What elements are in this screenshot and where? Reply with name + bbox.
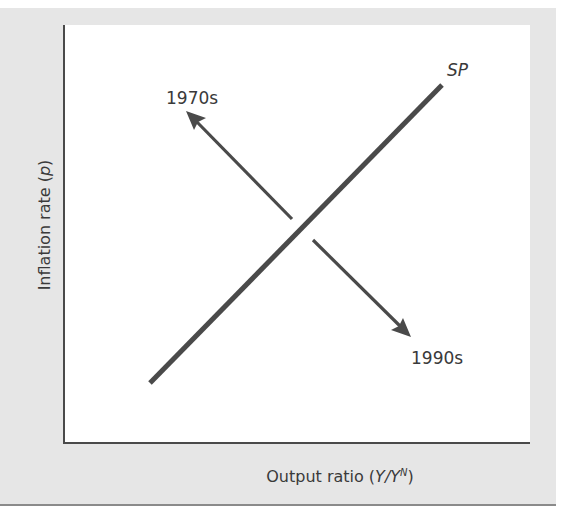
sp-curve	[150, 85, 442, 383]
arrow-1970s-label: 1970s	[166, 88, 218, 108]
x-axis-label: Output ratio (Y/YN)	[266, 467, 414, 486]
y-axis-label: Inflation rate (p)	[35, 160, 54, 291]
figure: SP 1970s 1990s Inflation rate (p) Output…	[0, 0, 569, 514]
x-axis-label-var: Y/Y	[375, 467, 400, 486]
x-axis-label-prefix: Output ratio (	[266, 467, 375, 486]
y-axis-label-prefix: Inflation rate (	[35, 176, 54, 290]
arrow-1970s-icon	[186, 111, 292, 219]
y-axis-label-suffix: )	[35, 160, 54, 166]
x-axis-label-suffix: )	[408, 467, 414, 486]
diagram-svg	[0, 0, 569, 514]
y-axis-label-var: p	[35, 166, 54, 176]
sp-curve-label: SP	[447, 60, 468, 80]
arrow-1990s-label: 1990s	[411, 348, 463, 368]
arrow-1990s-icon	[313, 240, 411, 337]
